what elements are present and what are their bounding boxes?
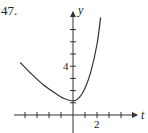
function-graph: t y 2 4 (0, 0, 148, 133)
y-tick-label-4: 4 (63, 60, 69, 72)
y-axis-label: y (77, 3, 84, 17)
x-tick-label-2: 2 (94, 118, 100, 130)
x-axis-label: t (141, 108, 145, 122)
curve-line (20, 17, 100, 101)
